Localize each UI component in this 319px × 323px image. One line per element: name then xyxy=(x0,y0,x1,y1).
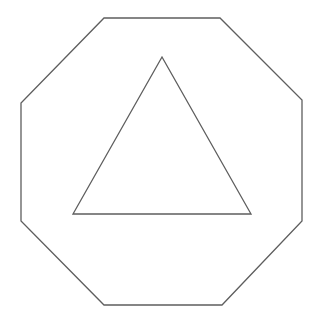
octagon-shape xyxy=(21,18,302,305)
diagram-canvas xyxy=(0,0,319,323)
triangle-shape xyxy=(73,57,251,214)
